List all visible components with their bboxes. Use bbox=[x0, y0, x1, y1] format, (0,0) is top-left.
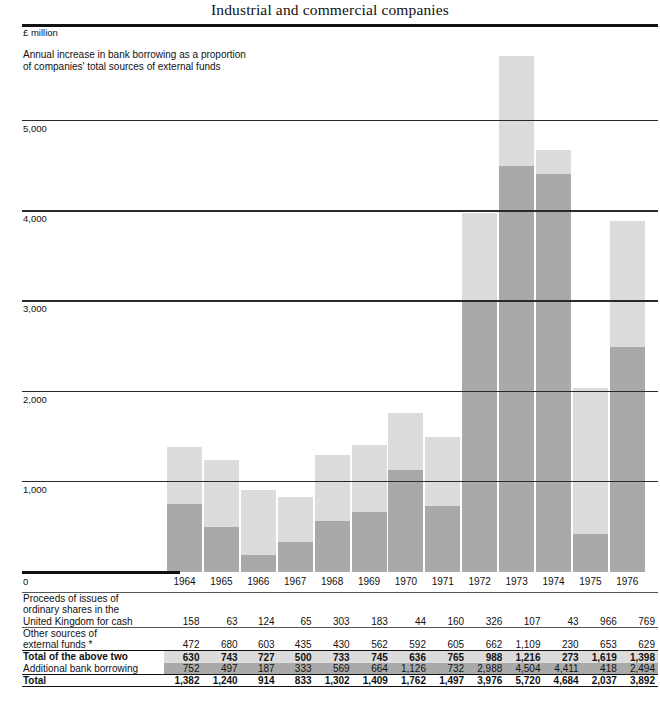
row-additional-bank-borrowing-1965: 497 bbox=[203, 663, 241, 675]
row-additional-bank-borrowing-1968: 569 bbox=[315, 663, 353, 675]
row-total-1973: 5,720 bbox=[505, 675, 543, 687]
bar-segment-other-sources-1966 bbox=[241, 490, 276, 556]
gridline-1000 bbox=[22, 481, 658, 482]
row-total-1970: 1,762 bbox=[391, 675, 429, 687]
row-ordinary-shares-1966: 124 bbox=[241, 593, 278, 628]
gridline-4000 bbox=[22, 210, 658, 211]
row-total-above-two: Total of the above two630743727500733745… bbox=[22, 651, 658, 663]
y-tick-label-3000: 3,000 bbox=[23, 303, 47, 314]
row-ordinary-shares-label: Proceeds of issues of ordinary shares in… bbox=[22, 593, 164, 628]
bar-1974 bbox=[536, 150, 571, 572]
row-total: Total1,3821,2409148331,3021,4091,7621,49… bbox=[22, 675, 658, 687]
bar-segment-bank-borrowing-1967 bbox=[278, 542, 313, 572]
x-tick-label-1967: 1967 bbox=[278, 576, 313, 587]
row-ordinary-shares-1975: 966 bbox=[582, 593, 620, 628]
row-other-sources-1965: 680 bbox=[203, 627, 241, 651]
bar-segment-other-sources-1971 bbox=[425, 437, 460, 506]
bar-segment-other-sources-1967 bbox=[278, 497, 313, 542]
x-tick-label-1974: 1974 bbox=[536, 576, 571, 587]
x-tick-label-1975: 1975 bbox=[573, 576, 608, 587]
bar-segment-bank-borrowing-1968 bbox=[315, 521, 350, 572]
x-tick-label-1964: 1964 bbox=[167, 576, 202, 587]
row-additional-bank-borrowing-1971: 732 bbox=[429, 663, 467, 675]
row-ordinary-shares-1968: 303 bbox=[315, 593, 353, 628]
bar-1965 bbox=[204, 460, 239, 572]
row-ordinary-shares-1973: 107 bbox=[505, 593, 543, 628]
row-additional-bank-borrowing-1976: 2,494 bbox=[620, 663, 658, 675]
row-ordinary-shares-1970: 44 bbox=[391, 593, 429, 628]
row-ordinary-shares-1964: 158 bbox=[164, 593, 202, 628]
bar-1966 bbox=[241, 490, 276, 572]
row-additional-bank-borrowing-1973: 4,504 bbox=[505, 663, 543, 675]
row-ordinary-shares-1969: 183 bbox=[353, 593, 391, 628]
row-other-sources-1973: 1,109 bbox=[505, 627, 543, 651]
row-ordinary-shares-1971: 160 bbox=[429, 593, 467, 628]
row-total-1976: 3,892 bbox=[620, 675, 658, 687]
x-tick-label-1973: 1973 bbox=[499, 576, 534, 587]
bar-segment-bank-borrowing-1965 bbox=[204, 527, 239, 572]
row-total-1974: 4,684 bbox=[543, 675, 581, 687]
row-total-above-two-1964: 630 bbox=[164, 651, 202, 663]
gridline-2000 bbox=[22, 391, 658, 392]
bar-segment-other-sources-1976 bbox=[610, 221, 645, 347]
row-additional-bank-borrowing-1966: 187 bbox=[241, 663, 278, 675]
plot-area: 1,0002,0003,0004,0005,000 bbox=[22, 24, 658, 576]
row-additional-bank-borrowing: Additional bank borrowing752497187333569… bbox=[22, 663, 658, 675]
row-total-above-two-label: Total of the above two bbox=[22, 651, 164, 663]
row-total-above-two-1972: 988 bbox=[467, 651, 505, 663]
bar-segment-bank-borrowing-1971 bbox=[425, 506, 460, 572]
data-table-region: Proceeds of issues of ordinary shares in… bbox=[22, 592, 658, 687]
row-additional-bank-borrowing-1972: 2,988 bbox=[467, 663, 505, 675]
row-additional-bank-borrowing-label: Additional bank borrowing bbox=[22, 663, 164, 675]
bar-segment-other-sources-1972 bbox=[462, 213, 497, 302]
bar-segment-bank-borrowing-1976 bbox=[610, 347, 645, 572]
row-total-above-two-1967: 500 bbox=[278, 651, 315, 663]
row-ordinary-shares-1965: 63 bbox=[203, 593, 241, 628]
bar-segment-bank-borrowing-1974 bbox=[536, 174, 571, 572]
row-ordinary-shares-1967: 65 bbox=[278, 593, 315, 628]
row-total-1964: 1,382 bbox=[164, 675, 202, 687]
row-additional-bank-borrowing-1969: 664 bbox=[353, 663, 391, 675]
y-axis-zero-label: 0 bbox=[23, 576, 28, 587]
row-other-sources-1971: 605 bbox=[429, 627, 467, 651]
bar-segment-other-sources-1964 bbox=[167, 447, 202, 504]
row-other-sources-1968: 430 bbox=[315, 627, 353, 651]
row-total-above-two-1976: 1,398 bbox=[620, 651, 658, 663]
bar-1964 bbox=[167, 447, 202, 572]
x-tick-label-1965: 1965 bbox=[204, 576, 239, 587]
bar-segment-bank-borrowing-1970 bbox=[388, 470, 423, 572]
row-other-sources-1970: 592 bbox=[391, 627, 429, 651]
row-other-sources-label: Other sources of external funds * bbox=[22, 627, 164, 651]
x-tick-label-1976: 1976 bbox=[610, 576, 645, 587]
row-ordinary-shares-1974: 43 bbox=[543, 593, 581, 628]
chart-page: Industrial and commercial companies £ mi… bbox=[0, 0, 660, 702]
row-additional-bank-borrowing-1970: 1,126 bbox=[391, 663, 429, 675]
x-tick-label-1971: 1971 bbox=[425, 576, 460, 587]
row-other-sources-1969: 562 bbox=[353, 627, 391, 651]
row-additional-bank-borrowing-1975: 418 bbox=[582, 663, 620, 675]
bar-segment-bank-borrowing-1973 bbox=[499, 166, 534, 572]
row-other-sources: Other sources of external funds *4726806… bbox=[22, 627, 658, 651]
row-other-sources-1974: 230 bbox=[543, 627, 581, 651]
row-ordinary-shares-1976: 769 bbox=[620, 593, 658, 628]
bar-segment-other-sources-1970 bbox=[388, 413, 423, 470]
chart-region: £ million Annual increase in bank borrow… bbox=[22, 24, 658, 576]
y-tick-label-4000: 4,000 bbox=[23, 213, 47, 224]
row-total-above-two-1974: 273 bbox=[543, 651, 581, 663]
row-other-sources-1972: 662 bbox=[467, 627, 505, 651]
bar-1972 bbox=[462, 213, 497, 572]
row-other-sources-1976: 629 bbox=[620, 627, 658, 651]
x-tick-label-1970: 1970 bbox=[388, 576, 423, 587]
bar-1969 bbox=[352, 445, 387, 572]
row-total-1965: 1,240 bbox=[203, 675, 241, 687]
row-other-sources-1967: 435 bbox=[278, 627, 315, 651]
bar-segment-other-sources-1968 bbox=[315, 455, 350, 521]
row-total-above-two-1975: 1,619 bbox=[582, 651, 620, 663]
bar-segment-bank-borrowing-1975 bbox=[573, 534, 608, 572]
row-total-above-two-1966: 727 bbox=[241, 651, 278, 663]
data-table: Proceeds of issues of ordinary shares in… bbox=[22, 592, 658, 687]
bar-segment-other-sources-1973 bbox=[499, 56, 534, 166]
row-total-1968: 1,302 bbox=[315, 675, 353, 687]
zero-baseline bbox=[22, 571, 180, 574]
bar-segment-other-sources-1965 bbox=[204, 460, 239, 527]
